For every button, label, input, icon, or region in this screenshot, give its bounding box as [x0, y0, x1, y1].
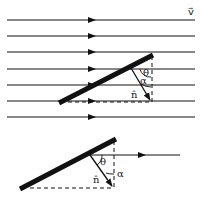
alpha-label: α	[140, 75, 147, 86]
flow-arrowhead	[138, 152, 146, 158]
alpha-arc-detail	[106, 173, 114, 174]
diagram-canvas: v⃗ θ α n̂ θ α n̂	[0, 0, 202, 210]
alpha-label-detail: α	[117, 168, 124, 179]
theta-label-detail: θ	[100, 156, 106, 167]
normal-label: n̂	[131, 89, 138, 100]
velocity-label: v⃗	[188, 6, 194, 17]
plate	[59, 55, 153, 103]
normal-label-detail: n̂	[93, 174, 100, 185]
flow-lines	[7, 20, 195, 117]
